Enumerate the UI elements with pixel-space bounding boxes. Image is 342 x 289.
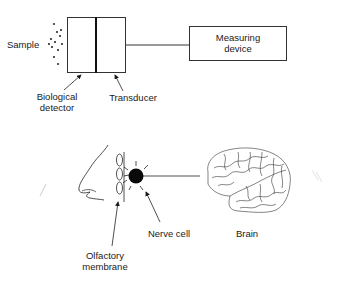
- measuring-device-label-line2: device: [189, 43, 287, 54]
- transducer-arrow: [115, 75, 123, 91]
- measuring-device-label: Measuring device: [189, 32, 287, 54]
- brain-icon: [208, 148, 291, 212]
- diagram-canvas: [0, 0, 342, 289]
- measuring-device-label-line1: Measuring: [189, 32, 287, 43]
- scan-artifact: [40, 184, 46, 196]
- nerve-cell-label: Nerve cell: [145, 228, 193, 239]
- olfactory-membrane-label-line2: membrane: [80, 261, 130, 272]
- nose-profile-icon: [79, 145, 108, 200]
- nerve-cell-arrow: [146, 192, 160, 222]
- biological-detector-arrow: [64, 75, 81, 90]
- biological-detector-label-line1: Biological: [33, 91, 81, 102]
- sample-label: Sample: [7, 39, 39, 50]
- olfactory-membrane-arrow: [112, 202, 118, 246]
- olfactory-membrane-label: Olfactory membrane: [80, 250, 130, 272]
- scan-artifact: [312, 170, 322, 182]
- brain-label: Brain: [232, 228, 262, 239]
- olfactory-receptor-icons: [117, 154, 123, 194]
- nerve-cell-icon: [123, 161, 148, 190]
- sample-dots: [48, 23, 63, 65]
- olfactory-membrane-label-line1: Olfactory: [80, 250, 130, 261]
- biological-detector-label-line2: detector: [33, 102, 81, 113]
- transducer-label: Transducer: [108, 92, 158, 103]
- biological-detector-label: Biological detector: [33, 91, 81, 113]
